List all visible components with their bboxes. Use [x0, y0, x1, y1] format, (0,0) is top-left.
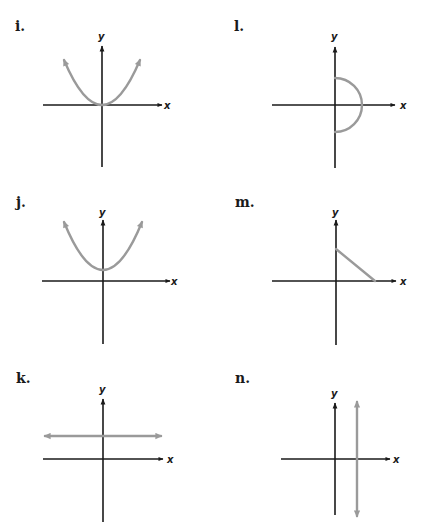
y-axis-label: y [331, 388, 338, 399]
graph-j: x y [42, 207, 178, 344]
x-axis-label: x [399, 276, 407, 287]
graph-i: x y [43, 31, 171, 167]
y-axis-label: y [99, 384, 106, 395]
graph-l: x y [272, 31, 407, 168]
y-axis-label: y [331, 31, 338, 42]
graph-n: x y [281, 388, 400, 516]
y-axis-label: y [99, 207, 106, 218]
y-axis-label: y [332, 207, 339, 218]
y-axis-label: y [98, 31, 105, 42]
graphs-canvas: x y x y x y x y x y x y [0, 0, 427, 530]
line-segment [336, 249, 375, 281]
x-axis-label: x [163, 100, 171, 111]
graph-k: x y [43, 384, 174, 522]
x-axis-label: x [399, 100, 407, 111]
x-axis-label: x [392, 454, 400, 465]
x-axis-label: x [166, 454, 174, 465]
x-axis-label: x [170, 276, 178, 287]
graph-m: x y [272, 207, 407, 345]
